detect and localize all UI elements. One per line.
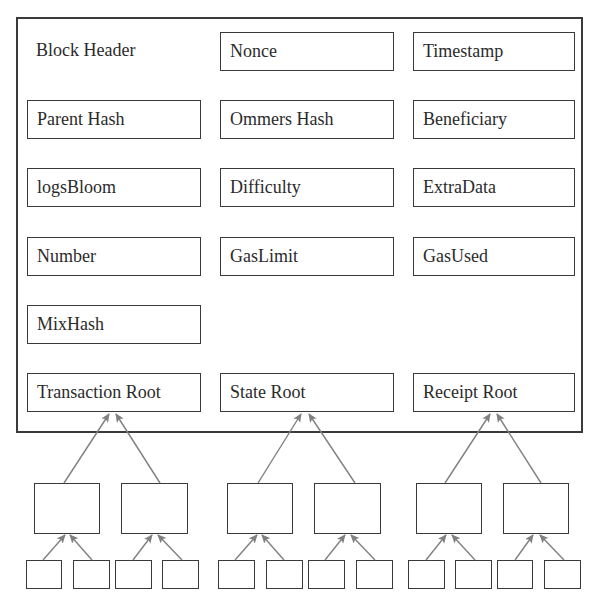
field-mix-hash: MixHash	[27, 305, 201, 344]
field-extra-data: ExtraData	[413, 168, 575, 207]
transaction-tree-leaf-node	[162, 560, 199, 589]
state-tree-leaf-node	[218, 560, 255, 589]
block-header-title: Block Header	[27, 32, 135, 68]
field-difficulty: Difficulty	[220, 168, 394, 207]
state-tree-leaf-node	[356, 560, 393, 589]
field-nonce: Nonce	[220, 32, 394, 71]
transaction-tree-intermediate-node	[34, 483, 100, 534]
receipt-tree-leaf-node	[455, 560, 492, 589]
transaction-tree-leaf-node	[115, 560, 152, 589]
transaction-tree-leaf-node	[73, 560, 110, 589]
state-tree-intermediate-node	[314, 483, 381, 534]
state-tree-intermediate-node	[227, 483, 293, 534]
receipt-tree-leaf-node	[408, 560, 445, 589]
field-number: Number	[27, 237, 201, 276]
field-beneficiary: Beneficiary	[413, 100, 575, 139]
transaction-root: Transaction Root	[27, 373, 201, 412]
state-root: State Root	[220, 373, 394, 412]
field-logs-bloom: logsBloom	[27, 168, 201, 207]
field-ommers-hash: Ommers Hash	[220, 100, 394, 139]
transaction-tree-intermediate-node	[121, 483, 188, 534]
field-parent-hash: Parent Hash	[27, 100, 201, 139]
transaction-tree-leaf-node	[26, 560, 62, 589]
state-tree-leaf-node	[308, 560, 345, 589]
field-gas-used: GasUsed	[413, 237, 575, 276]
receipt-tree-intermediate-node	[416, 483, 482, 534]
field-timestamp: Timestamp	[413, 32, 575, 71]
receipt-tree-intermediate-node	[503, 483, 569, 534]
block-header-container	[16, 17, 583, 433]
field-gas-limit: GasLimit	[220, 237, 394, 276]
receipt-root: Receipt Root	[413, 373, 575, 412]
receipt-tree-leaf-node	[544, 560, 581, 589]
state-tree-leaf-node	[266, 560, 303, 589]
receipt-tree-leaf-node	[497, 560, 533, 589]
